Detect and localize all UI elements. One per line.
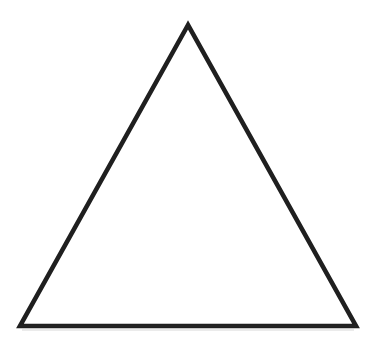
- figure-canvas: [0, 0, 376, 350]
- triangle-svg: [0, 0, 376, 350]
- canvas-background: [0, 0, 376, 350]
